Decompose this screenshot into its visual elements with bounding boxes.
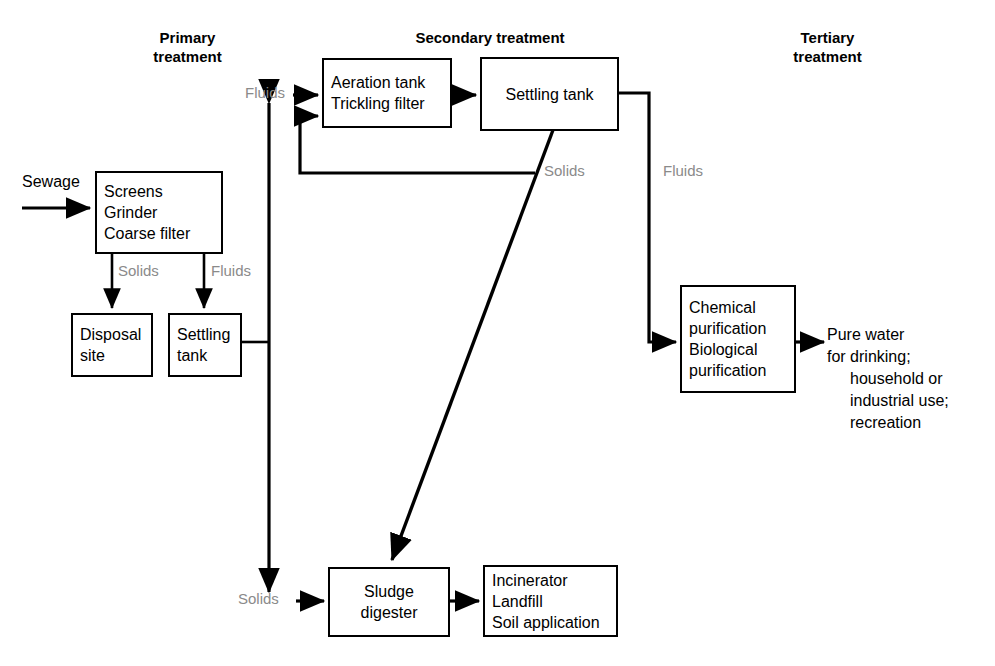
node-disposal-line-1: Disposal <box>80 324 141 345</box>
node-ssettling-line-1: Settling tank <box>505 84 593 105</box>
node-chemical-line-2: purification <box>689 318 766 339</box>
node-incinerator-line-2: Landfill <box>492 591 543 612</box>
edge-label-fluids-primary: Fluids <box>211 262 251 279</box>
section-title-tertiary: Tertiary treatment <box>740 28 915 66</box>
edge-label-fluids-to-aerator: Fluids <box>245 84 285 101</box>
node-chemical-line-3: Biological <box>689 339 757 360</box>
node-chemical-line-1: Chemical <box>689 297 756 318</box>
node-disposal-site[interactable]: Disposal site <box>71 313 153 377</box>
node-aeration-tank-trickling-filter[interactable]: Aeration tank Trickling filter <box>322 58 452 128</box>
flowchart-canvas: Primary treatment Secondary treatment Te… <box>0 0 995 666</box>
edge-label-solids-to-sludge: Solids <box>238 590 279 607</box>
edge-label-solids-secondary: Solids <box>544 162 585 179</box>
node-incinerator-line-3: Soil application <box>492 612 600 633</box>
edge-label-fluids-tertiary: Fluids <box>663 162 703 179</box>
output-line-1: Pure water <box>827 324 949 346</box>
node-aeration-line-1: Aeration tank <box>331 72 425 93</box>
section-title-secondary: Secondary treatment <box>370 28 610 47</box>
node-psettling-line-1: Settling <box>177 324 230 345</box>
edge-ssettling-fluids-to-chemical <box>618 93 676 342</box>
edge-label-solids-primary: Solids <box>118 262 159 279</box>
node-sludge-line-1: Sludge <box>364 581 414 602</box>
node-screens-grinder-coarse-filter[interactable]: Screens Grinder Coarse filter <box>95 171 223 254</box>
output-line-2: for drinking; <box>827 346 949 368</box>
node-disposal-line-2: site <box>80 345 105 366</box>
edge-ssettling-solids-diagonal <box>392 130 553 560</box>
node-screens-line-2: Grinder <box>104 202 157 223</box>
output-pure-water-text: Pure water for drinking; household or in… <box>827 324 949 434</box>
node-incinerator-landfill-soil[interactable]: Incinerator Landfill Soil application <box>483 565 618 637</box>
node-primary-settling-tank[interactable]: Settling tank <box>168 313 242 377</box>
output-line-5: recreation <box>827 412 949 434</box>
output-line-4: industrial use; <box>827 390 949 412</box>
node-chemical-biological-purification[interactable]: Chemical purification Biological purific… <box>680 285 796 393</box>
node-chemical-line-4: purification <box>689 360 766 381</box>
node-incinerator-line-1: Incinerator <box>492 570 568 591</box>
node-sludge-digester[interactable]: Sludge digester <box>328 567 450 637</box>
node-aeration-line-2: Trickling filter <box>331 93 425 114</box>
node-screens-line-3: Coarse filter <box>104 223 190 244</box>
section-title-primary: Primary treatment <box>95 28 280 66</box>
node-psettling-line-2: tank <box>177 345 207 366</box>
node-secondary-settling-tank[interactable]: Settling tank <box>480 57 619 131</box>
node-sludge-line-2: digester <box>361 602 418 623</box>
output-line-3: household or <box>827 368 949 390</box>
node-screens-line-1: Screens <box>104 181 163 202</box>
io-label-sewage: Sewage <box>22 173 80 191</box>
